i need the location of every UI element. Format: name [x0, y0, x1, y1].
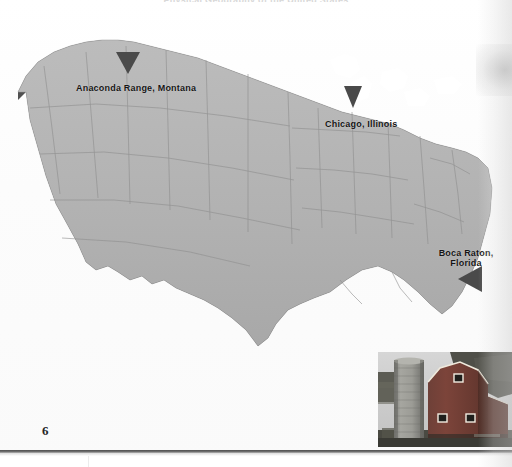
- page-number: 6: [42, 423, 49, 439]
- photo-inset-barn: [378, 352, 512, 447]
- running-head: Physical Geography of the United States: [0, 0, 512, 2]
- textbook-page: Physical Geography of the United States: [0, 0, 512, 467]
- photo-silo: [394, 358, 424, 438]
- map-label-boca-raton-florida: Boca Raton, Florida: [430, 248, 502, 268]
- gutter-line: [88, 456, 89, 467]
- map-label-anaconda-range-montana: Anaconda Range, Montana: [76, 83, 196, 93]
- map-svg: [0, 8, 512, 348]
- barn-photo-svg: [378, 352, 512, 447]
- map-label-boca-raton-line-2: Florida: [430, 258, 502, 268]
- map-label-boca-raton-line-1: Boca Raton,: [430, 248, 502, 258]
- bottom-margin: [0, 456, 512, 467]
- map-label-chicago-illinois: Chicago, Illinois: [325, 119, 397, 129]
- united-states-map-figure: [0, 8, 512, 348]
